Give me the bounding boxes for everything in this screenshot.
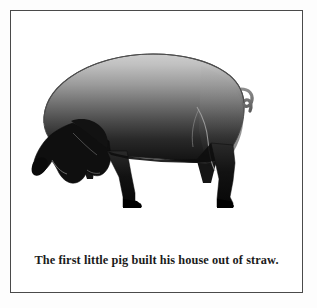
pig-illustration-svg [11, 11, 302, 251]
pig-illustration [11, 11, 302, 251]
hind-leg-near [211, 143, 235, 207]
pig-head-group [32, 119, 111, 183]
illustration-frame: The first little pig built his house out… [10, 10, 303, 293]
caption-text: The first little pig built his house out… [11, 253, 302, 268]
page-canvas: The first little pig built his house out… [0, 0, 317, 308]
